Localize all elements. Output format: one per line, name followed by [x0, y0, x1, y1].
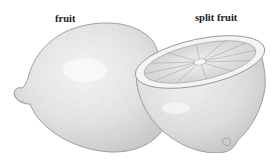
lemon-illustration: fruit split fruit — [0, 0, 277, 163]
label-fruit: fruit — [55, 14, 75, 25]
lemon-drawing — [0, 0, 277, 163]
label-split-fruit: split fruit — [195, 13, 237, 24]
